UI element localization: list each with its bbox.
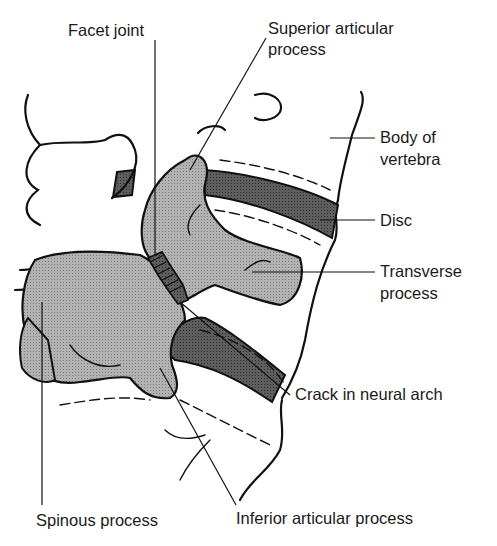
- label-transverse-process-line1: Transverse: [380, 261, 462, 282]
- label-crack-in-neural-arch: Crack in neural arch: [295, 384, 443, 405]
- leader-superior-articular: [190, 38, 266, 170]
- label-superior-articular-process-line2: process: [268, 39, 326, 60]
- label-transverse-process-line2: process: [380, 283, 438, 304]
- label-spinous-process: Spinous process: [36, 510, 158, 531]
- label-inferior-articular-process: Inferior articular process: [236, 508, 413, 529]
- label-disc: Disc: [380, 210, 412, 231]
- label-body-of-vertebra-line2: vertebra: [380, 149, 441, 170]
- label-superior-articular-process-line1: Superior articular: [268, 18, 394, 39]
- lower-disc: [160, 318, 285, 402]
- label-facet-joint: Facet joint: [68, 20, 144, 41]
- leader-inferior: [160, 368, 236, 505]
- label-body-of-vertebra-line1: Body of: [380, 127, 436, 148]
